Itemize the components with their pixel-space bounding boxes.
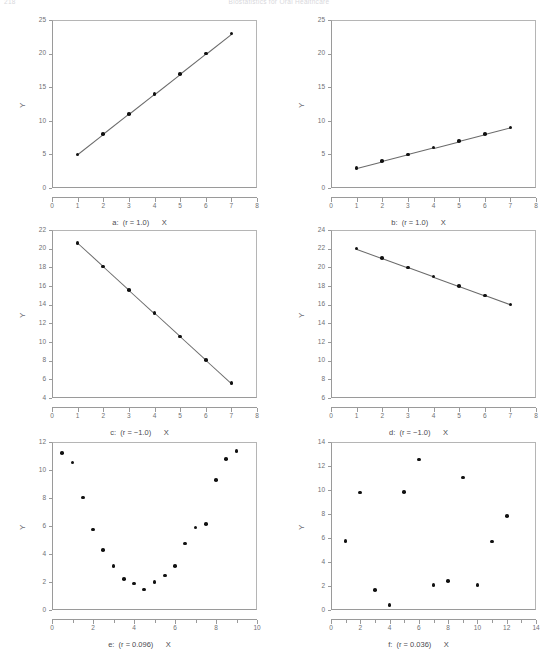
y-tick-label: 15 [279, 84, 325, 91]
x-tick-label: 6 [196, 413, 216, 420]
x-tick-label: 8 [206, 625, 226, 632]
data-point [373, 588, 377, 592]
x-tick-label: 0 [42, 625, 62, 632]
chart-panel-b: 0510152025012345678Yb: (r = 1.0) X [279, 14, 558, 229]
y-tick [49, 230, 53, 231]
y-tick-label: 22 [0, 227, 46, 234]
x-tick-label: 6 [475, 203, 495, 210]
x-tick-minor [73, 620, 74, 623]
x-tick-label: 0 [42, 413, 62, 420]
x-tick-label: 3 [119, 203, 139, 210]
data-point [178, 335, 182, 339]
y-tick [49, 398, 53, 399]
x-tick-label: 5 [170, 413, 190, 420]
y-axis-label: Y [297, 525, 306, 530]
x-tick-label: 0 [42, 203, 62, 210]
x-tick-label: 6 [409, 625, 429, 632]
y-tick-label: 10 [279, 357, 325, 364]
running-head: 218 Biostatistics for Oral Healthcare [0, 0, 558, 10]
x-tick-label: 7 [221, 203, 241, 210]
data-point [214, 478, 218, 482]
y-tick [49, 188, 53, 189]
x-tick-minor [434, 620, 435, 623]
x-tick-label: 1 [68, 203, 88, 210]
y-tick [328, 323, 332, 324]
book-title: Biostatistics for Oral Healthcare [0, 0, 558, 5]
x-tick-label: 5 [449, 203, 469, 210]
x-tick-label: 5 [449, 413, 469, 420]
x-tick-label: 2 [372, 413, 392, 420]
y-tick [49, 20, 53, 21]
x-tick-label: 7 [500, 203, 520, 210]
y-tick-label: 2 [0, 579, 46, 586]
y-tick [328, 267, 332, 268]
y-tick [328, 154, 332, 155]
y-tick [328, 538, 332, 539]
y-tick-label: 4 [279, 559, 325, 566]
chart-panel-f: 0246810121402468101214Yf: (r = 0.036) X [279, 430, 558, 659]
y-tick [328, 586, 332, 587]
data-point [60, 451, 64, 455]
data-point [457, 284, 461, 288]
data-point [380, 256, 384, 260]
data-point [122, 577, 126, 581]
data-point [173, 564, 177, 568]
data-point [101, 548, 105, 552]
x-tick-label: 3 [398, 203, 418, 210]
x-tick-minor [155, 620, 156, 623]
y-tick [49, 442, 53, 443]
x-tick-minor [404, 620, 405, 623]
x-tick-minor [521, 620, 522, 623]
x-tick-label: 2 [350, 625, 370, 632]
x-tick-label: 4 [124, 625, 144, 632]
y-tick-label: 16 [279, 301, 325, 308]
y-tick [49, 87, 53, 88]
x-tick-label: 8 [247, 203, 267, 210]
chart-panel-a: 0510152025012345678Ya: (r = 1.0) X [0, 14, 279, 229]
x-tick-label: 10 [467, 625, 487, 632]
y-tick [49, 54, 53, 55]
y-tick-label: 18 [279, 283, 325, 290]
plot-frame [52, 442, 257, 610]
data-point [204, 52, 208, 56]
x-tick-label: 3 [398, 413, 418, 420]
y-tick [49, 286, 53, 287]
y-tick [49, 498, 53, 499]
y-tick [328, 121, 332, 122]
x-tick-label: 0 [321, 203, 341, 210]
y-tick-label: 8 [279, 376, 325, 383]
y-tick-label: 14 [0, 301, 46, 308]
x-tick-label: 8 [247, 413, 267, 420]
y-tick [328, 610, 332, 611]
y-tick-label: 14 [279, 320, 325, 327]
y-tick-label: 8 [0, 357, 46, 364]
data-point [461, 476, 465, 480]
data-point [224, 457, 228, 461]
x-tick-label: 14 [526, 625, 546, 632]
data-point [417, 458, 421, 462]
x-tick-label: 2 [93, 203, 113, 210]
data-point [230, 381, 234, 385]
x-tick-label: 1 [347, 413, 367, 420]
y-tick [328, 361, 332, 362]
y-tick-label: 10 [0, 118, 46, 125]
y-tick-label: 0 [279, 185, 325, 192]
plot-frame [331, 230, 536, 398]
x-tick-label: 8 [526, 203, 546, 210]
x-tick-label: 8 [526, 413, 546, 420]
y-tick-label: 22 [279, 245, 325, 252]
y-tick-label: 12 [0, 439, 46, 446]
y-axis-label: Y [18, 313, 27, 318]
y-tick-label: 0 [279, 607, 325, 614]
y-tick [328, 342, 332, 343]
x-tick-label: 2 [372, 203, 392, 210]
y-tick [49, 361, 53, 362]
x-tick-label: 7 [221, 413, 241, 420]
data-point [91, 528, 95, 532]
y-tick-label: 20 [0, 50, 46, 57]
figure-panel-grid: 0510152025012345678Ya: (r = 1.0) X 05101… [0, 14, 558, 659]
x-tick-label: 4 [424, 413, 444, 420]
y-tick [328, 442, 332, 443]
x-tick-label: 7 [500, 413, 520, 420]
x-tick-label: 1 [68, 413, 88, 420]
